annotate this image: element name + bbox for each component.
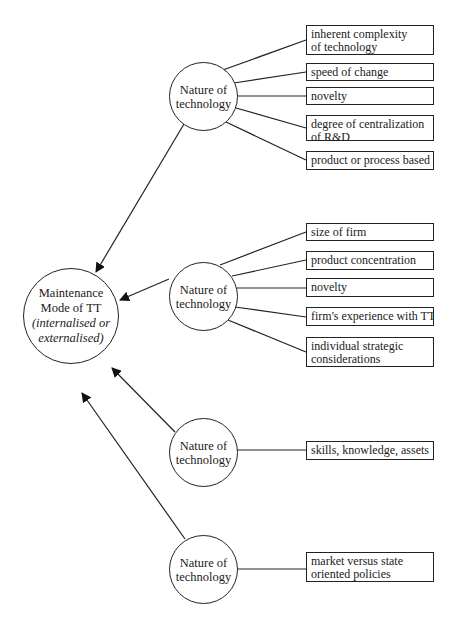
factor-text: novelty [311,90,429,103]
cluster-node-1: Nature of technology [169,62,238,131]
factor-text: of technology [311,41,429,54]
factor-box: novelty [306,278,434,297]
factor-text: firm's experience with TT [311,310,429,323]
factor-box: novelty [306,87,434,105]
factor-box: degree of centralization of R&D [306,115,434,141]
central-node-maintenance-mode: Maintenance Mode of TT (internalised or … [23,268,119,364]
cluster-4-label-line2: technology [176,570,232,584]
cluster-3-label-line2: technology [176,453,232,467]
cluster-node-4: Nature of technology [169,535,238,604]
factor-text: oriented policies [311,568,429,581]
factor-text: market versus state [311,555,429,568]
central-node-line4: externalised) [32,331,110,346]
factor-text: product or process based [311,154,429,167]
factor-box: market versus state oriented policies [306,552,434,582]
factor-box: skills, knowledge, assets [306,441,434,460]
cluster-4-label-line1: Nature of [176,556,232,570]
factor-box: product concentration [306,251,434,270]
central-node-line2: Mode of TT [32,301,110,316]
cluster-2-label-line2: technology [176,297,232,311]
factor-text: considerations [311,353,429,366]
factor-text: individual strategic [311,340,429,353]
factor-text: speed of change [311,66,429,79]
factor-text: product concentration [311,254,429,267]
factor-text: size of firm [311,226,429,239]
factor-text: of R&D [311,131,429,142]
cluster-1-label-line1: Nature of [176,83,232,97]
central-node-line3: (internalised or [32,316,110,331]
factor-text: degree of centralization [311,118,429,131]
factor-box: firm's experience with TT [306,307,434,326]
factor-text: skills, knowledge, assets [311,444,429,457]
factor-box: speed of change [306,63,434,81]
cluster-1-label-line2: technology [176,97,232,111]
cluster-2-label-line1: Nature of [176,283,232,297]
factor-text: novelty [311,281,429,294]
factor-box: size of firm [306,223,434,241]
cluster-node-2: Nature of technology [169,262,238,331]
factor-box: inherent complexity of technology [306,25,434,55]
factor-text: inherent complexity [311,28,429,41]
cluster-node-3: Nature of technology [169,418,238,487]
factor-box: product or process based [306,151,434,170]
cluster-3-label-line1: Nature of [176,439,232,453]
factor-box: individual strategic considerations [306,337,434,367]
central-node-line1: Maintenance [32,286,110,301]
